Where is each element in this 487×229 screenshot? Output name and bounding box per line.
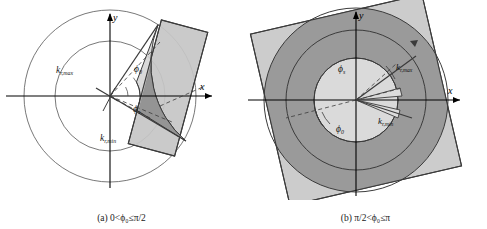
y-axis-label: y (358, 10, 364, 21)
angle-arc-phis (126, 87, 128, 96)
k-r-min-label: kr,min (100, 133, 116, 144)
panel-a-caption-text: (a) 0<ϕ₀≤π/2 (97, 213, 146, 223)
origin-tick-b (103, 88, 115, 111)
y-axis-label: y (112, 12, 118, 23)
panel-a: kr,max kr,min ϕ0 ϕs y x (a) 0<ϕ₀≤π/2 (0, 0, 243, 229)
panel-b-caption-text: (b) π/2<ϕ₀≤π (341, 213, 390, 223)
panel-b: kr,max kr,min ϕs ϕ0 y x (b) π/2<ϕ₀≤π (244, 0, 487, 229)
figure-root: kr,max kr,min ϕ0 ϕs y x (a) 0<ϕ₀≤π/2 (0, 0, 487, 229)
panel-b-caption: (b) π/2<ϕ₀≤π (244, 213, 487, 223)
panel-a-caption: (a) 0<ϕ₀≤π/2 (0, 213, 243, 223)
panel-b-drawing: kr,max kr,min ϕs ϕ0 y x (244, 0, 487, 200)
x-axis-label: x (199, 81, 205, 92)
panel-a-drawing: kr,max kr,min ϕ0 ϕs y x (0, 0, 243, 200)
x-axis-arrow (453, 97, 460, 103)
k-r-max-label: kr,max (56, 65, 74, 76)
x-axis-arrow (205, 93, 212, 99)
x-axis-label: x (447, 85, 453, 96)
phi-zero-label: ϕ0 (134, 64, 142, 75)
